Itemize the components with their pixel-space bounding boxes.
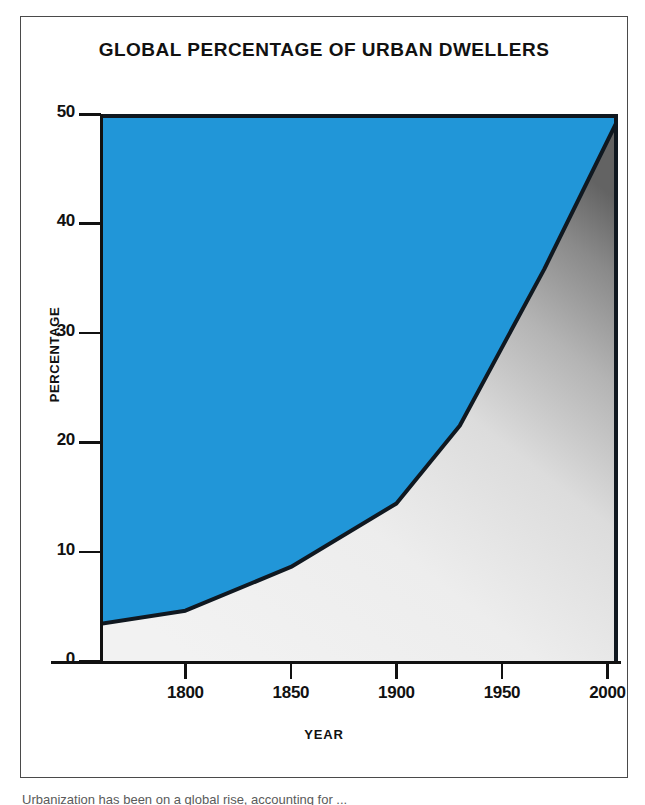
y-tick-mark [79,441,101,444]
y-tick-label: 40 [41,211,75,231]
caption-text: Urbanization has been on a global rise, … [22,793,622,805]
x-tick-mark [501,664,504,679]
x-tick-label: 1900 [366,683,426,703]
y-tick-label: 10 [41,540,75,560]
y-tick-mark [79,660,101,663]
x-tick-label: 1950 [472,683,532,703]
page-title: GLOBAL PERCENTAGE OF URBAN DWELLERS [21,39,627,61]
y-tick-mark [79,222,101,225]
figure-frame: GLOBAL PERCENTAGE OF URBAN DWELLERS [20,16,628,778]
x-tick-mark [606,664,609,679]
y-tick-label: 50 [41,102,75,122]
plot-area [101,114,618,661]
y-tick-mark [79,113,101,116]
area-chart-svg [101,114,618,661]
y-tick-mark [79,551,101,554]
x-axis-title: YEAR [21,727,627,742]
x-tick-mark [290,664,293,679]
x-tick-label: 1850 [261,683,321,703]
x-tick-mark [395,664,398,679]
y-axis-line [100,114,103,664]
x-axis-line [51,661,621,664]
y-tick-label: 0 [41,649,75,669]
y-tick-label: 20 [41,430,75,450]
x-tick-label: 2000 [577,683,637,703]
x-tick-mark [184,664,187,679]
y-tick-mark [79,332,101,335]
y-axis-title: PERCENTAGE [47,295,62,415]
x-tick-label: 1800 [155,683,215,703]
